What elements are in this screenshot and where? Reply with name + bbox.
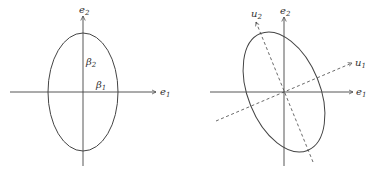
right-e1-label: e1 xyxy=(356,86,366,99)
beta2-label: β2 xyxy=(85,56,97,69)
left-panel: e2 e1 β2 β1 xyxy=(10,4,170,166)
right-panel: e2 e1 u2 u1 xyxy=(210,5,366,166)
u1-label: u1 xyxy=(355,57,366,70)
left-e2-label: e2 xyxy=(79,4,90,17)
u2-label: u2 xyxy=(251,8,262,21)
left-e1-label: e1 xyxy=(160,86,170,99)
beta1-label: β1 xyxy=(95,79,106,92)
diagram-canvas: e2 e1 β2 β1 e2 e1 u2 u1 xyxy=(0,0,375,169)
right-e2-label: e2 xyxy=(280,5,291,18)
